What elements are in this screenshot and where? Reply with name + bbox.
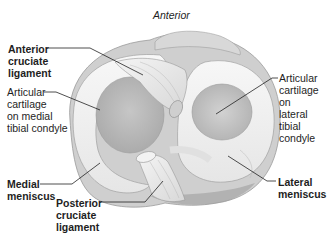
tibial-plateau-diagram: Anterior Anterior cruciate ligament Arti… (0, 0, 329, 237)
label-medial-articular-cartilage: Articular cartilage on medial tibial con… (7, 86, 68, 134)
label-lateral-articular-cartilage: Articular cartilage on lateral tibial co… (279, 72, 329, 144)
lateral-articular-cartilage (192, 84, 252, 140)
label-anterior-cruciate-ligament: Anterior cruciate ligament (8, 43, 51, 79)
label-medial-meniscus: Medial meniscus (7, 178, 55, 202)
label-lateral-meniscus: Lateral meniscus (278, 176, 326, 200)
orientation-label-anterior: Anterior (153, 9, 190, 21)
label-posterior-cruciate-ligament: Posterior cruciate ligament (56, 197, 102, 233)
